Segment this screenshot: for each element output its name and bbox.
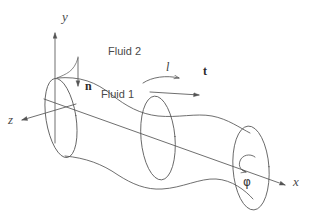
z-axis-line: [22, 104, 76, 120]
normal-vector-label: n: [85, 80, 92, 92]
z-axis-label: z: [8, 113, 13, 126]
tangent-vector-arrow: [150, 92, 199, 95]
normal-vector-leader: [57, 58, 78, 78]
cross-section-left: [40, 76, 82, 160]
tube-lower-surface-curve: [65, 156, 253, 199]
phi-angle-label: φ: [243, 176, 251, 188]
phi-rotation-arrow: [239, 155, 255, 172]
arclength-curved-arrow: [143, 77, 179, 83]
x-axis-label: x: [293, 175, 299, 188]
y-axis-label: y: [62, 10, 68, 23]
fluid-1-label: Fluid 1: [101, 89, 134, 100]
cross-section-middle: [137, 95, 178, 182]
diagram-canvas: [0, 0, 314, 219]
tangent-vector-label: t: [203, 65, 207, 77]
arclength-label: l: [166, 61, 169, 73]
x-axis-line: [44, 99, 285, 185]
fluid-tube-diagram: y z x Fluid 2 Fluid 1 n t l φ: [0, 0, 314, 219]
fluid-2-label: Fluid 2: [108, 46, 141, 57]
